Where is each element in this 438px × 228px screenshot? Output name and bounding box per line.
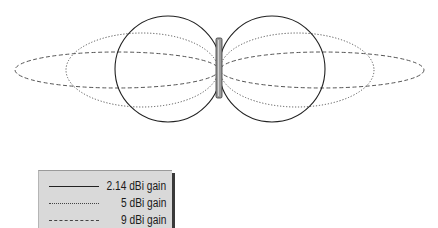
legend-item-5dbi: 5 dBi gain bbox=[39, 196, 172, 212]
legend-item-2-14dbi: 2.14 dBi gain bbox=[39, 179, 172, 195]
solid-line-swatch bbox=[49, 186, 99, 187]
dotted-line-swatch bbox=[49, 203, 99, 204]
legend-label: 9 dBi gain bbox=[121, 213, 166, 227]
gain-5-lobe-left bbox=[66, 33, 218, 107]
gain-5-lobe-right bbox=[220, 33, 374, 107]
gain-9-lobe-right bbox=[220, 52, 424, 88]
legend: 2.14 dBi gain 5 dBi gain 9 dBi gain bbox=[38, 170, 172, 228]
radiation-pattern-diagram bbox=[0, 0, 438, 140]
dashed-line-swatch bbox=[49, 220, 99, 221]
legend-label: 2.14 dBi gain bbox=[106, 179, 166, 193]
legend-label: 5 dBi gain bbox=[121, 196, 166, 210]
antenna-icon bbox=[216, 38, 222, 98]
gain-2-14-lobe-right bbox=[219, 16, 325, 122]
gain-2-14-lobe-left bbox=[115, 16, 221, 122]
legend-item-9dbi: 9 dBi gain bbox=[39, 213, 172, 228]
